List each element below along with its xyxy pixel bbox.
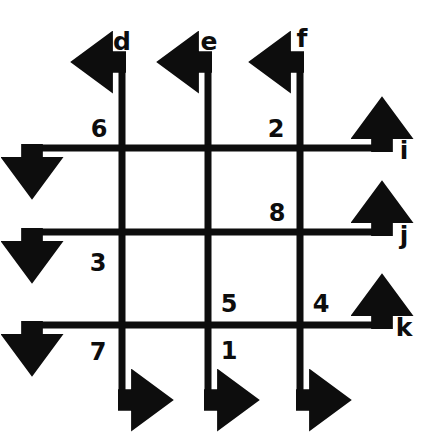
geometry-diagram: d e f i j k 6 2 8 3 5 4 1 7 xyxy=(0,0,432,433)
diagram-canvas xyxy=(0,0,432,433)
